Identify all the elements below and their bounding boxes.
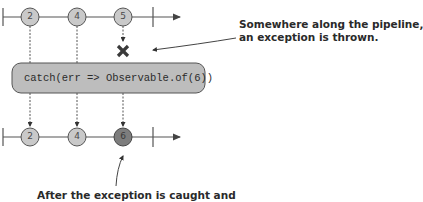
x-icon bbox=[118, 46, 128, 56]
top-marble-label: 2 bbox=[21, 11, 39, 21]
bottom-connectors bbox=[30, 93, 123, 126]
error-note-line: an exception is thrown. bbox=[239, 31, 423, 44]
top-marble-label: 4 bbox=[68, 11, 86, 21]
error-note: Somewhere along the pipeline, an excepti… bbox=[239, 18, 423, 43]
recovery-note-line: After the exception is caught and bbox=[37, 189, 236, 202]
top-connectors bbox=[30, 26, 123, 63]
bottom-marble-label: 6 bbox=[114, 131, 132, 141]
recovery-note-arrow bbox=[116, 156, 123, 186]
bottom-marble-label: 4 bbox=[68, 131, 86, 141]
bottom-marble-label: 2 bbox=[21, 131, 39, 141]
top-marble-label: 5 bbox=[114, 11, 132, 21]
recovery-note: After the exception is caught and bbox=[37, 189, 236, 202]
error-note-arrow bbox=[153, 38, 236, 50]
error-note-line: Somewhere along the pipeline, bbox=[239, 18, 423, 31]
catch-operator-label: catch(err => Observable.of(6)) bbox=[24, 72, 213, 84]
